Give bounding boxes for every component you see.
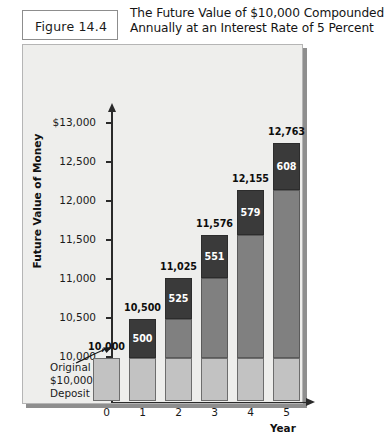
bar-segment-value-4: 579	[238, 207, 263, 218]
chart-title-line-2: Annually at an Interest Rate of 5 Percen…	[130, 21, 380, 36]
bar-segment-principal-5	[273, 358, 300, 401]
bar-segment-value-3: 551	[202, 251, 227, 262]
bar-segment-principal-3	[201, 358, 228, 401]
x-tick-label-2: 2	[165, 406, 192, 418]
x-axis-title: Year	[270, 422, 296, 434]
x-tick-label-4: 4	[237, 406, 264, 418]
figure-number-box: Figure 14.4	[22, 10, 118, 40]
bar-segment-current-interest-5: 608	[273, 143, 300, 190]
bar-segment-value-5: 608	[274, 161, 299, 172]
bar-segment-current-interest-2: 525	[165, 278, 192, 319]
chart-title-line-1: The Future Value of $10,000 Compounded	[130, 6, 380, 21]
x-axis-line	[111, 402, 307, 404]
figure-number-label: Figure 14.4	[23, 11, 119, 41]
y-tick-12500	[106, 161, 112, 163]
bar-segment-value-2: 525	[166, 293, 191, 304]
bar-segment-prior-interest-2	[165, 319, 192, 358]
y-tick-11500	[106, 239, 112, 241]
y-tick-label-11000: 11,000	[26, 272, 96, 284]
bar-segment-prior-interest-5	[273, 190, 300, 358]
x-tick-label-3: 3	[201, 406, 228, 418]
y-tick-10500	[106, 317, 112, 319]
x-tick-label-1: 1	[129, 406, 156, 418]
x-tick-label-5: 5	[273, 406, 300, 418]
bar-segment-principal-1	[129, 358, 156, 401]
bar-segment-prior-interest-3	[201, 278, 228, 358]
y-axis-arrow-icon	[108, 103, 116, 112]
chart-title: The Future Value of $10,000 Compounded A…	[130, 6, 380, 35]
bar-segment-current-interest-4: 579	[237, 190, 264, 235]
bar-total-label-3: 11,576	[194, 218, 235, 229]
y-tick-13000	[106, 122, 112, 124]
chart-panel: Future Value of Money $13,000 12,500 12,…	[22, 44, 303, 404]
y-tick-label-12000: 12,000	[26, 194, 96, 206]
bar-total-label-1: 10,500	[122, 302, 163, 313]
bar-total-label-5: 12,763	[266, 126, 307, 137]
bar-segment-current-interest-1: 500	[129, 319, 156, 358]
deposit-callout-line-1: Original	[50, 361, 110, 374]
y-tick-label-10500: 10,500	[26, 311, 96, 323]
bar-segment-principal-4	[237, 358, 264, 401]
x-axis-arrow-icon	[306, 398, 315, 406]
y-tick-label-13000: $13,000	[26, 116, 96, 128]
bar-segment-value-1: 500	[130, 333, 155, 344]
bar-segment-current-interest-3: 551	[201, 235, 228, 278]
deposit-callout-line-3: Deposit	[50, 387, 110, 400]
bar-segment-prior-interest-4	[237, 235, 264, 358]
deposit-callout-line-2: $10,000	[50, 374, 110, 387]
y-tick-label-11500: 11,500	[26, 233, 96, 245]
deposit-callout-label: Original $10,000 Deposit	[50, 361, 110, 399]
bar-segment-principal-2	[165, 358, 192, 401]
x-tick-label-0: 0	[93, 406, 120, 418]
y-tick-label-12500: 12,500	[26, 155, 96, 167]
bar-total-label-2: 11,025	[158, 261, 199, 272]
panel-shadow-right	[303, 48, 307, 408]
y-tick-11000	[106, 278, 112, 280]
bar-total-label-4: 12,155	[230, 173, 271, 184]
y-tick-12000	[106, 200, 112, 202]
